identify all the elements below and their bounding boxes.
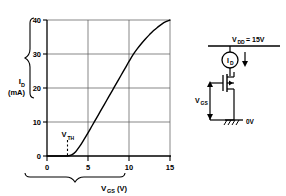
current-label-symbol: I	[227, 57, 229, 64]
vgs-label-symbol: V	[195, 97, 200, 104]
supply-label-subscript: DD	[238, 39, 246, 45]
ytick-label-40: 40	[33, 16, 41, 25]
figure-canvas: 40 30 20 10 0 0 5 10 15 V TH	[0, 0, 286, 196]
current-source-label: I D	[227, 57, 234, 66]
supply-label: V DD = 15V	[232, 36, 265, 45]
ground-label: 0V	[246, 118, 255, 125]
ground-symbol	[224, 120, 243, 125]
x-axis-title-subscript: GS	[107, 188, 115, 194]
current-direction-arrow	[242, 52, 248, 67]
ytick-label-20: 20	[33, 84, 41, 93]
circuit-group: V DD = 15V I D	[195, 36, 280, 125]
mosfet-body-arrow	[229, 81, 233, 86]
chart-gridlines-horizontal	[47, 20, 170, 122]
vgs-label: V GS	[195, 97, 208, 106]
vgs-arrow-up	[207, 81, 213, 87]
xtick-label-10: 10	[125, 163, 133, 172]
y-axis-title: I D (mA)	[8, 77, 26, 97]
figure-root: 40 30 20 10 0 0 5 10 15 V TH	[0, 0, 286, 196]
supply-label-symbol: V	[232, 36, 237, 43]
current-label-subscript: D	[230, 60, 234, 66]
y-axis-title-subscript: D	[21, 82, 25, 88]
threshold-label-subscript: TH	[68, 135, 75, 141]
y-axis-tick-labels: 40 30 20 10 0	[33, 16, 41, 161]
x-axis-brace	[25, 173, 125, 182]
supply-label-value: = 15V	[246, 36, 265, 43]
ytick-label-0: 0	[37, 152, 41, 161]
threshold-label: V	[62, 130, 67, 139]
ytick-label-30: 30	[33, 50, 41, 59]
x-axis-title-units: (V)	[117, 184, 128, 193]
vgs-arrow-down	[207, 114, 213, 120]
ytick-label-10: 10	[33, 118, 41, 127]
xtick-label-0: 0	[45, 163, 49, 172]
xtick-label-5: 5	[86, 163, 90, 172]
chart-group: 40 30 20 10 0 0 5 10 15 V TH	[8, 16, 174, 194]
x-axis-title: V GS (V)	[101, 184, 128, 194]
vgs-label-subscript: GS	[201, 100, 209, 106]
threshold-annotation: V TH	[62, 130, 75, 141]
y-axis-title-units: (mA)	[8, 88, 26, 97]
xtick-label-15: 15	[166, 163, 174, 172]
x-axis-tick-labels: 0 5 10 15	[45, 163, 174, 172]
